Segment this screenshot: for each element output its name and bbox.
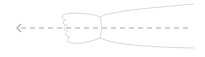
arm-outline-icon [0, 0, 205, 57]
arrow-left-icon [17, 24, 21, 32]
arm-direction-illustration: arm-extended-left [0, 0, 205, 57]
forearm-outline [100, 4, 194, 17]
forearm-bottom-outline [100, 38, 194, 48]
